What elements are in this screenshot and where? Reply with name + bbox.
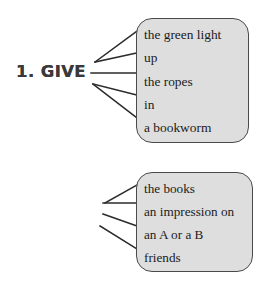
phrase-item[interactable]: the ropes	[144, 70, 248, 93]
phrase-item[interactable]: a bookworm	[144, 116, 248, 139]
phrase-box-give: the green light up the ropes in a bookwo…	[136, 18, 249, 143]
phrase-item[interactable]: an impression on	[144, 200, 252, 223]
verb-label-give: 1. GIVE	[16, 62, 86, 81]
phrase-box-make: the books an impression on an A or a B f…	[136, 172, 253, 272]
phrase-item[interactable]: an A or a B	[144, 223, 252, 246]
connector-line	[103, 214, 137, 226]
exercise-group-give: 1. GIVE the green light up the ropes in …	[0, 0, 273, 150]
phrase-item[interactable]: friends	[144, 246, 252, 269]
connector-line	[100, 226, 137, 249]
connector-line	[105, 185, 137, 203]
phrase-item[interactable]: up	[144, 46, 248, 69]
collocation-exercise: 1. GIVE the green light up the ropes in …	[0, 0, 273, 293]
exercise-group-make: 2. MAKE the books an impression on an A …	[0, 150, 273, 293]
phrase-item[interactable]: in	[144, 93, 248, 116]
phrase-list-make: the books an impression on an A or a B f…	[144, 177, 252, 269]
phrase-list-give: the green light up the ropes in a bookwo…	[144, 23, 248, 139]
phrase-item[interactable]: the green light	[144, 23, 248, 46]
phrase-item[interactable]: the books	[144, 177, 252, 200]
